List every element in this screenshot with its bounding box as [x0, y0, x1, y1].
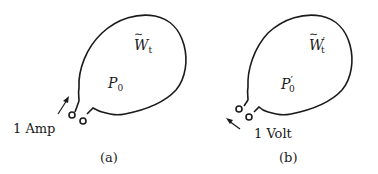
caption-b: (b) — [279, 151, 297, 164]
terminal-a2 — [80, 118, 86, 124]
tilde-accent: ∼ — [309, 29, 318, 40]
source-label-b: 1 Volt — [254, 127, 292, 140]
region-label-b: ∼ W ′t — [309, 36, 325, 55]
region-boundary-b — [248, 15, 352, 115]
terminal-b2 — [246, 114, 252, 120]
port-label-a: P0 — [108, 76, 123, 93]
terminal-b1 — [236, 106, 242, 112]
current-arrow-icon — [58, 96, 69, 114]
caption-a: (a) — [100, 151, 118, 164]
port-label-b: P′0 — [281, 75, 295, 94]
terminal-a1 — [69, 112, 75, 118]
voltage-arrow-icon — [226, 118, 240, 129]
region-label-a: ∼ W t — [134, 38, 152, 55]
region-boundary-a — [79, 15, 186, 115]
tilde-accent: ∼ — [134, 29, 143, 40]
diagram-drawing — [0, 0, 378, 174]
figure: ∼ W t P0 1 Amp (a) ∼ W ′t P′0 1 Volt (b) — [0, 0, 378, 174]
source-label-a: 1 Amp — [13, 122, 55, 135]
